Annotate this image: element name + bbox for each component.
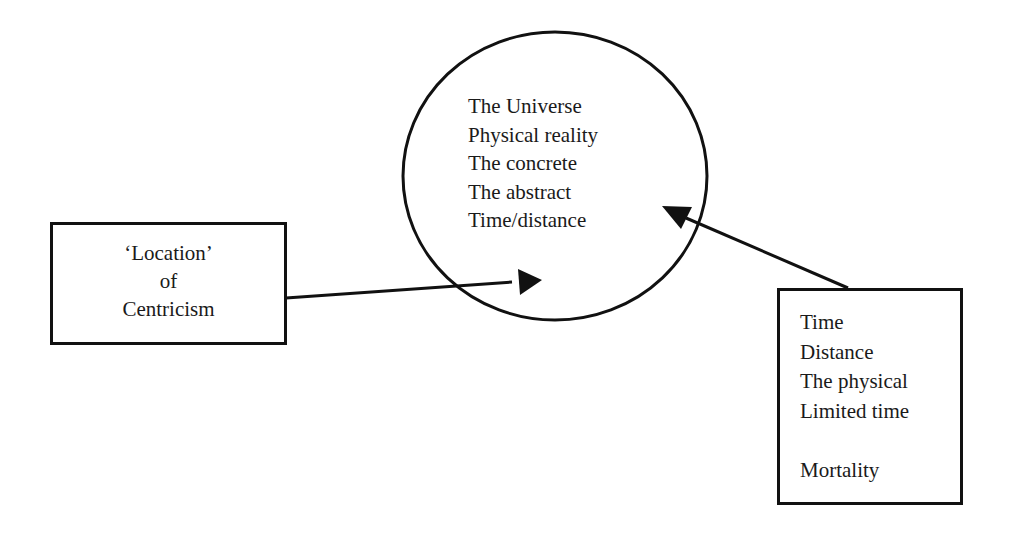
circle-item: Time/distance <box>468 206 598 235</box>
mortality-box: Time Distance The physical Limited time … <box>777 288 963 505</box>
circle-item: The abstract <box>468 178 598 207</box>
right-box-item: Distance <box>800 338 960 368</box>
right-box-item: Mortality <box>800 456 960 486</box>
circle-item: The concrete <box>468 149 598 178</box>
left-box-line: of <box>53 267 284 295</box>
left-box-line: Centricism <box>53 295 284 323</box>
circle-item-list: The Universe Physical reality The concre… <box>468 92 598 235</box>
right-box-spacer <box>800 426 960 456</box>
right-box-item: Time <box>800 308 960 338</box>
circle-item: Physical reality <box>468 121 598 150</box>
right-box-item: The physical <box>800 367 960 397</box>
left-box-line: ‘Location’ <box>53 239 284 267</box>
right-box-item: Limited time <box>800 397 960 427</box>
arrow-left-to-circle <box>286 269 542 298</box>
arrow-right-to-circle <box>662 206 848 288</box>
location-of-centricism-box: ‘Location’ of Centricism <box>50 222 287 345</box>
circle-item: The Universe <box>468 92 598 121</box>
